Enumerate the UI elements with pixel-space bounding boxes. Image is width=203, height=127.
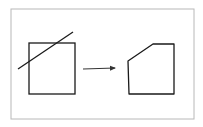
clipping-diagram [0,0,203,127]
diagram-frame [11,9,194,119]
